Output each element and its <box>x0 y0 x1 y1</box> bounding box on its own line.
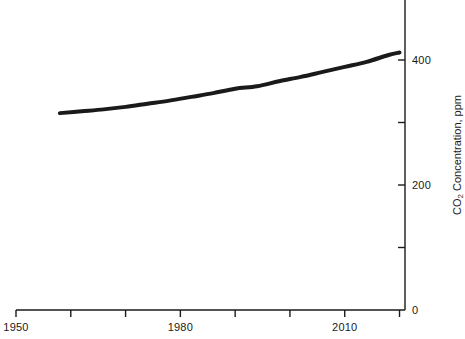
y-tick-label-200: 200 <box>412 180 431 191</box>
y-tick-label-0: 0 <box>412 305 418 316</box>
co2-trend-line <box>60 53 400 114</box>
y-tick-label-400: 400 <box>412 55 431 66</box>
x-tick-label-1950: 1950 <box>3 322 28 333</box>
x-axis-ticks <box>16 310 400 317</box>
co2-subscript: 2 <box>456 194 465 198</box>
x-tick-label-2010: 2010 <box>332 322 357 333</box>
x-tick-label-1980: 1980 <box>168 322 193 333</box>
y-axis-ticks <box>398 60 405 248</box>
